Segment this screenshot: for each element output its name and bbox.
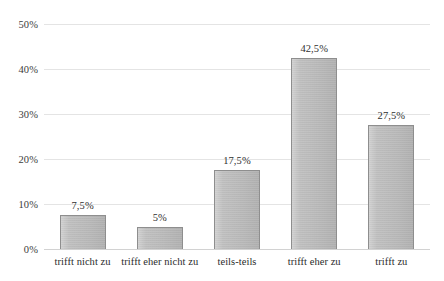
y-tick-label: 50% (0, 19, 38, 30)
bar[interactable] (137, 227, 183, 250)
bar-value-label: 7,5% (71, 200, 93, 211)
bar-value-label: 5% (153, 212, 167, 223)
bar-value-label: 17,5% (223, 155, 251, 166)
category-label: trifft eher nicht zu (121, 256, 198, 267)
bar-group: 5% (121, 0, 198, 281)
bar[interactable] (368, 125, 414, 249)
plot-area: 7,5%5%17,5%42,5%27,5% (44, 0, 430, 281)
y-tick-label: 10% (0, 199, 38, 210)
y-tick-label: 20% (0, 154, 38, 165)
y-tick-label: 0% (0, 244, 38, 255)
bar-value-label: 42,5% (300, 43, 328, 54)
bar-value-label: 27,5% (378, 110, 406, 121)
bar-group: 17,5% (198, 0, 275, 281)
bar[interactable] (214, 170, 260, 249)
bar-group: 7,5% (44, 0, 121, 281)
y-tick-label: 30% (0, 109, 38, 120)
bar-chart: 0%10%20%30%40%50% 7,5%5%17,5%42,5%27,5% … (0, 0, 444, 281)
y-tick-label: 40% (0, 64, 38, 75)
category-label: trifft eher zu (276, 256, 353, 267)
bar-group: 42,5% (276, 0, 353, 281)
category-label: trifft zu (353, 256, 430, 267)
bar[interactable] (291, 58, 337, 249)
bar-group: 27,5% (353, 0, 430, 281)
category-label: trifft nicht zu (44, 256, 121, 267)
bar[interactable] (60, 215, 106, 249)
x-axis: trifft nicht zutrifft eher nicht zuteils… (44, 256, 430, 281)
category-label: teils-teils (198, 256, 275, 267)
y-axis: 0%10%20%30%40%50% (0, 0, 38, 281)
